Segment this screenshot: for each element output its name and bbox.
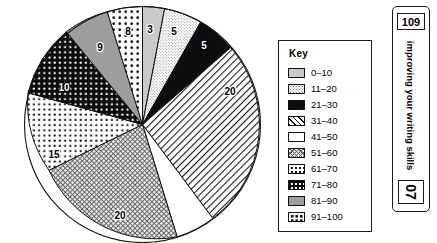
legend-swatch-icon <box>288 132 305 142</box>
legend-item-label: 21–30 <box>311 100 337 110</box>
section-number-label: 07 <box>403 184 419 200</box>
legend-item-61-70[interactable]: 61–70 <box>288 161 371 177</box>
margin-tab: 109 improving your writing skills 07 <box>392 6 430 212</box>
legend-item-label: 31–40 <box>311 116 337 126</box>
section-title-rotated: improving your writing skills <box>393 30 429 180</box>
legend-swatch-icon <box>288 100 305 110</box>
legend-swatch-icon <box>288 164 305 174</box>
pie-label-0-10: 3 <box>147 24 153 35</box>
legend-item-51-60[interactable]: 51–60 <box>288 145 371 161</box>
page-canvas: 3 5 5 20 20 15 10 9 8 Key 0–10 11–20 21–… <box>0 0 437 243</box>
legend-title: Key <box>289 48 371 59</box>
pie-label-21-30: 5 <box>201 40 207 51</box>
legend-item-label: 11–20 <box>311 84 337 94</box>
legend-swatch-icon <box>288 180 305 190</box>
legend-item-label: 51–60 <box>311 148 337 158</box>
legend-item-41-50[interactable]: 41–50 <box>288 129 371 145</box>
legend-item-31-40[interactable]: 31–40 <box>288 113 371 129</box>
legend-item-label: 0–10 <box>311 68 332 78</box>
pie-label-61-70: 15 <box>48 149 60 160</box>
legend-item-71-80[interactable]: 71–80 <box>288 177 371 193</box>
section-title-label: improving your writing skills <box>406 40 417 169</box>
legend-item-label: 41–50 <box>311 132 337 142</box>
legend-item-81-90[interactable]: 81–90 <box>288 193 371 209</box>
pie-label-71-80: 10 <box>58 82 70 93</box>
legend-item-label: 71–80 <box>311 180 337 190</box>
pie-label-91-100: 8 <box>125 26 131 37</box>
pie-label-11-20: 5 <box>171 26 177 37</box>
pie-label-81-90: 9 <box>97 42 103 53</box>
legend-item-91-100[interactable]: 91–100 <box>288 209 371 225</box>
legend-swatch-icon <box>288 68 305 78</box>
legend-item-label: 61–70 <box>311 164 337 174</box>
legend-swatch-icon <box>288 116 305 126</box>
legend-item-label: 91–100 <box>311 212 343 222</box>
legend-item-label: 81–90 <box>311 196 337 206</box>
legend-swatch-icon <box>288 84 305 94</box>
pie-label-31-40: 20 <box>224 86 236 97</box>
page-number: 109 <box>397 13 425 30</box>
pie-slices <box>28 6 260 238</box>
legend-swatch-icon <box>288 148 305 158</box>
pie-chart-svg: 3 5 5 20 20 15 10 9 8 <box>22 4 263 243</box>
legend-item-21-30[interactable]: 21–30 <box>288 97 371 113</box>
legend-item-0-10[interactable]: 0–10 <box>288 65 371 81</box>
legend-swatch-icon <box>288 212 305 222</box>
legend-item-11-20[interactable]: 11–20 <box>288 81 371 97</box>
pie-chart: 3 5 5 20 20 15 10 9 8 <box>22 4 263 243</box>
legend-swatch-icon <box>288 196 305 206</box>
section-number: 07 <box>398 180 424 204</box>
chart-legend: Key 0–10 11–20 21–30 31–40 41–50 51–60 6… <box>278 40 372 232</box>
pie-label-51-60: 20 <box>114 210 126 221</box>
